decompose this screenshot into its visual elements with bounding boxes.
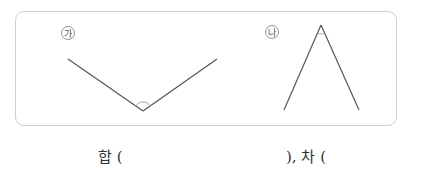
obtuse-angle: [68, 59, 217, 111]
difference-answer-label: ), 차 (: [286, 145, 326, 166]
label-na-icon: 나: [266, 26, 279, 39]
acute-angle: [284, 25, 359, 110]
angles-figure: 가 나: [0, 0, 432, 183]
svg-text:가: 가: [64, 29, 72, 39]
label-ga-icon: 가: [62, 27, 75, 40]
svg-text:나: 나: [268, 28, 276, 38]
sum-answer-label: 합 (: [98, 145, 123, 166]
